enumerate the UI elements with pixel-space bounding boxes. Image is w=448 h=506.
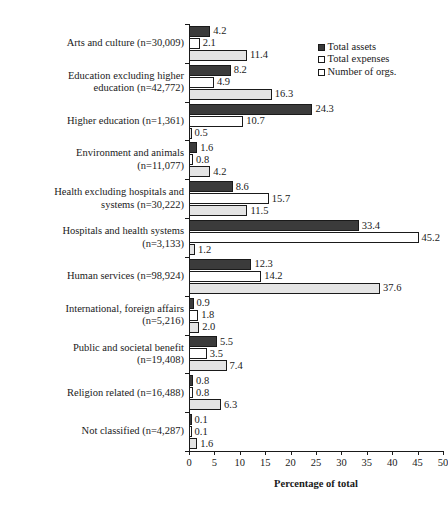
y-axis-tick	[185, 218, 189, 219]
x-axis-tick-label: 35	[362, 457, 373, 468]
bar-expenses	[189, 154, 193, 165]
bar-assets	[189, 298, 194, 309]
x-axis-tick-label: 45	[412, 457, 423, 468]
bar-assets	[189, 181, 233, 192]
bar-assets	[189, 414, 192, 425]
bar-value-label: 1.2	[198, 244, 211, 255]
category-label: Public and societal benefit (n=19,408)	[0, 342, 189, 367]
y-axis-tick	[185, 24, 189, 25]
bar-value-label: 2.0	[202, 321, 215, 332]
category-label: Higher education (n=1,361)	[0, 115, 189, 127]
bar-orgs	[189, 166, 210, 177]
bar-expenses	[189, 426, 192, 437]
bar-value-label: 4.2	[213, 166, 226, 177]
bar-value-label: 24.3	[315, 103, 333, 114]
bar-orgs	[189, 128, 192, 139]
bar-orgs	[189, 438, 197, 449]
bar-expenses	[189, 348, 207, 359]
category-label: Environment and animals (n=11,077)	[0, 147, 189, 172]
bar-orgs	[189, 360, 227, 371]
bar-orgs	[189, 50, 247, 61]
bar-value-label: 16.3	[275, 88, 293, 99]
x-axis-tick	[291, 451, 292, 455]
x-axis-tick-label: 5	[212, 457, 217, 468]
bar-value-label: 0.8	[196, 154, 209, 165]
x-axis-tick	[367, 451, 368, 455]
x-axis-tick	[443, 451, 444, 455]
bar-value-label: 10.7	[246, 115, 264, 126]
bar-orgs	[189, 205, 247, 216]
x-axis-tick-label: 40	[387, 457, 398, 468]
category-label: Hospitals and health systems (n=3,133)	[0, 225, 189, 250]
x-axis-tick	[265, 451, 266, 455]
bar-value-label: 0.9	[197, 297, 210, 308]
x-axis-title: Percentage of total	[189, 478, 443, 489]
y-axis-tick	[185, 451, 189, 452]
bar-value-label: 4.9	[217, 76, 230, 87]
bar-value-label: 1.8	[201, 309, 214, 320]
x-axis-tick	[392, 451, 393, 455]
bar-expenses	[189, 310, 198, 321]
bar-orgs	[189, 89, 272, 100]
bar-value-label: 0.8	[196, 387, 209, 398]
x-axis-tick-label: 0	[186, 457, 191, 468]
x-axis-tick-label: 25	[311, 457, 322, 468]
category-label: Health excluding hospitals and systems (…	[0, 186, 189, 211]
bar-value-label: 2.1	[203, 37, 216, 48]
bar-value-label: 6.3	[224, 399, 237, 410]
x-axis-tick	[214, 451, 215, 455]
x-axis-tick-label: 20	[285, 457, 296, 468]
y-axis-tick	[185, 412, 189, 413]
bar-expenses	[189, 387, 193, 398]
x-axis-tick	[418, 451, 419, 455]
bar-assets	[189, 336, 217, 347]
bar-value-label: 4.2	[213, 25, 226, 36]
x-axis-tick-label: 50	[438, 457, 448, 468]
bar-expenses	[189, 77, 214, 88]
category-label: Religion related (n=16,488)	[0, 387, 189, 399]
bar-value-label: 0.8	[196, 375, 209, 386]
bar-value-label: 0.1	[195, 414, 208, 425]
bar-value-label: 1.6	[200, 142, 213, 153]
bar-value-label: 45.2	[422, 232, 440, 243]
bar-value-label: 5.5	[220, 336, 233, 347]
bar-value-label: 8.6	[236, 181, 249, 192]
bar-assets	[189, 142, 197, 153]
bar-value-label: 11.5	[250, 205, 268, 216]
y-axis-tick	[185, 179, 189, 180]
bar-value-label: 12.3	[254, 258, 272, 269]
x-axis-tick-label: 10	[235, 457, 246, 468]
x-axis-tick-label: 30	[336, 457, 347, 468]
bar-value-label: 14.2	[264, 270, 282, 281]
bar-value-label: 33.4	[362, 220, 380, 231]
category-label: Not classified (n=4,287)	[0, 425, 189, 437]
bar-expenses	[189, 193, 269, 204]
bar-value-label: 8.2	[234, 64, 247, 75]
x-axis-tick	[189, 451, 190, 455]
bar-value-label: 1.6	[200, 438, 213, 449]
bar-assets	[189, 104, 312, 115]
bar-assets	[189, 26, 210, 37]
bar-orgs	[189, 283, 380, 294]
bar-expenses	[189, 232, 419, 243]
bar-assets	[189, 259, 251, 270]
bar-value-label: 3.5	[210, 348, 223, 359]
bar-assets	[189, 375, 193, 386]
bar-expenses	[189, 116, 243, 127]
bar-value-label: 11.4	[250, 49, 268, 60]
bar-orgs	[189, 244, 195, 255]
bar-expenses	[189, 38, 200, 49]
bar-value-label: 37.6	[383, 282, 401, 293]
bar-assets	[189, 65, 231, 76]
bar-value-label: 0.5	[195, 127, 208, 138]
category-label: Education excluding higher education (n=…	[0, 70, 189, 95]
bar-value-label: 7.4	[230, 360, 243, 371]
bar-value-label: 0.1	[195, 426, 208, 437]
category-label: Arts and culture (n=30,009)	[0, 37, 189, 49]
y-axis-tick	[185, 373, 189, 374]
category-label: International, foreign affairs (n=5,216)	[0, 303, 189, 328]
bar-expenses	[189, 271, 261, 282]
x-axis-tick-label: 15	[260, 457, 271, 468]
x-axis-tick	[316, 451, 317, 455]
